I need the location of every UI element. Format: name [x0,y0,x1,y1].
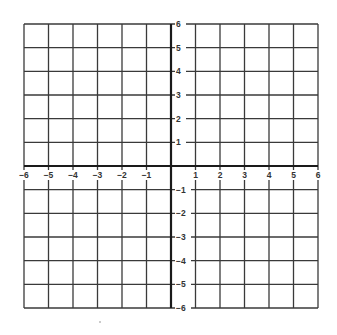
x-tick-label: −6 [19,170,29,180]
x-tick-label: 2 [218,170,223,180]
x-tick-label: 1 [193,170,198,180]
axes [24,24,318,308]
y-tick-label: −5 [176,279,186,289]
coordinate-plane: −6−5−4−3−2−1123456 654321−1−2−3−4−5−6 [0,0,337,335]
x-tick-label: −1 [142,170,152,180]
y-tick-label: 4 [176,66,181,76]
x-tick-label: −3 [93,170,103,180]
y-tick-label: 5 [176,43,181,53]
x-tick-label: 6 [316,170,321,180]
y-tick-label: −2 [176,208,186,218]
x-tick-label: −4 [68,170,78,180]
y-tick-label: −3 [176,232,186,242]
x-tick-label: −2 [117,170,127,180]
y-tick-label: 2 [176,114,181,124]
y-tick-label: 6 [176,19,181,29]
y-tick-label: −4 [176,256,186,266]
x-tick-label: −5 [44,170,54,180]
stray-dot [99,321,101,323]
y-tick-label: −6 [176,303,186,313]
x-tick-label: 4 [267,170,272,180]
y-tick-label: 3 [176,90,181,100]
x-tick-label: 3 [242,170,247,180]
y-tick-label: 1 [176,137,181,147]
y-tick-label: −1 [176,185,186,195]
x-tick-label: 5 [291,170,296,180]
